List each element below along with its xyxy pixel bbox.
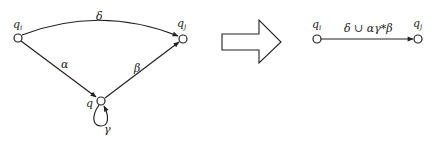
label-q: q	[86, 97, 93, 110]
node-qi-result	[313, 35, 321, 43]
label-combined-regex: δ ∪ αγ*β	[344, 22, 393, 35]
node-qi	[14, 34, 22, 42]
state-elimination-diagram: qi qj q δ α β γ qi qj δ ∪ αγ*β	[0, 0, 439, 149]
label-qi-result: qi	[312, 18, 321, 32]
node-qj	[179, 35, 187, 43]
right-graph: qi qj δ ∪ αγ*β	[312, 17, 423, 43]
label-delta: δ	[96, 10, 103, 23]
edge-alpha	[21, 41, 96, 97]
left-graph: qi qj q δ α β γ	[13, 10, 187, 136]
label-alpha: α	[61, 58, 69, 71]
transform-arrow-icon	[222, 20, 281, 63]
node-qj-result	[414, 35, 422, 43]
label-qi: qi	[13, 18, 22, 32]
label-qj: qj	[177, 17, 187, 31]
edge-beta	[105, 42, 179, 98]
label-gamma: γ	[104, 123, 111, 136]
label-beta: β	[133, 62, 140, 75]
label-qj-result: qj	[413, 17, 423, 31]
node-q	[97, 97, 105, 105]
